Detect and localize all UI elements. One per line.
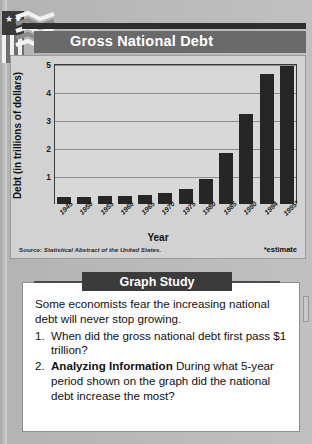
x-axis-tick: 1960 [117, 206, 131, 232]
x-axis-ticks: 1945195019551960196519701975198019851990… [54, 206, 297, 232]
title-rule [22, 23, 306, 29]
y-axis-tick-label: 5 [46, 60, 51, 70]
y-axis-label-text: Debt (in trillions of dollars) [13, 71, 24, 198]
bar [260, 74, 274, 204]
x-axis-tick: 1980 [199, 206, 213, 232]
x-axis-tick: 1985 [220, 206, 234, 232]
page-left-edge [0, 0, 7, 444]
x-axis-tick: 1970 [158, 206, 172, 232]
question-number: 2. [35, 359, 45, 374]
x-axis-tick: 1945 [56, 206, 70, 232]
source-prefix: Source: [19, 246, 42, 253]
graph-study-intro: Some economists fear the increasing nati… [35, 297, 289, 327]
plot-area: 12345 [54, 64, 297, 204]
page-background: ★ ★ Gross National Debt Debt (in trillio… [0, 0, 312, 444]
bar [239, 114, 253, 204]
x-axis-tick: 1975 [179, 206, 193, 232]
graph-study-question: 1.When did the gross national debt first… [35, 329, 289, 359]
graph-study-banner: Graph Study [82, 272, 232, 291]
x-axis-tick: 1995* [281, 206, 295, 232]
x-axis-tick: 1965 [138, 206, 152, 232]
x-axis-tick: 1950 [76, 206, 90, 232]
bar [280, 66, 294, 204]
header-banner: Gross National Debt [34, 31, 306, 53]
page-title: Gross National Debt [70, 33, 213, 49]
x-axis-tick: 1990 [240, 206, 254, 232]
graph-study-rule-left [34, 281, 84, 283]
y-axis-tick-label: 2 [46, 144, 51, 154]
bar [219, 153, 233, 204]
chart-panel: Debt (in trillions of dollars) 12345 194… [10, 55, 306, 259]
graph-study-box: Some economists fear the increasing nati… [22, 282, 300, 432]
y-axis-tick-label: 4 [46, 88, 51, 98]
scrollbar-thumb[interactable] [303, 296, 309, 322]
graph-study-question-list: 1.When did the gross national debt first… [35, 329, 289, 404]
x-axis-tick: 1994 [261, 206, 275, 232]
y-axis-label: Debt (in trillions of dollars) [10, 68, 26, 202]
x-axis-label: Year [11, 232, 305, 243]
question-skill-label: Analyzing Information [51, 359, 173, 372]
chart-footnote: *estimate [264, 245, 297, 254]
question-number: 1. [35, 329, 45, 344]
x-axis-tick: 1955 [97, 206, 111, 232]
chart-source: Source: Statistical Abstract of the Unit… [19, 246, 161, 253]
graph-study-title: Graph Study [119, 275, 194, 289]
y-axis-tick-label: 3 [46, 116, 51, 126]
question-text: When did the gross national debt first p… [51, 329, 286, 357]
source-title: Statistical Abstract of the United State… [44, 246, 161, 253]
graph-study-rule-right [230, 281, 280, 283]
y-axis-tick-label: 1 [46, 172, 51, 182]
bar-series [55, 65, 296, 204]
graph-study-question: 2.Analyzing Information During what 5-ye… [35, 359, 289, 403]
